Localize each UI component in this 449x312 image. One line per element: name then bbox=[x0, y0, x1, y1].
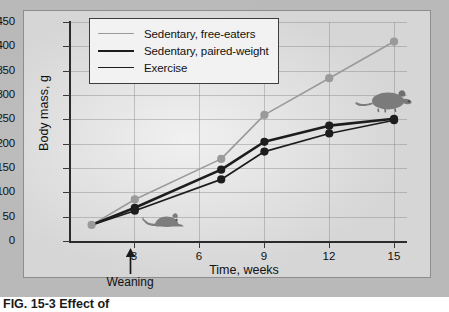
legend-entry-exercise: Exercise bbox=[98, 59, 270, 76]
legend-entry-label: Exercise bbox=[144, 62, 187, 74]
legend-line-swatch bbox=[98, 50, 134, 52]
y-tick-label: 150 bbox=[0, 161, 15, 173]
weaning-annotation: Weaning bbox=[88, 248, 172, 289]
data-point-marker bbox=[260, 147, 268, 155]
data-point-marker bbox=[390, 37, 398, 45]
rat-pup-icon bbox=[142, 211, 188, 231]
data-point-marker-origin bbox=[88, 221, 96, 229]
data-point-marker bbox=[325, 122, 333, 130]
data-point-marker bbox=[131, 195, 139, 203]
data-point-marker bbox=[217, 175, 225, 183]
data-point-marker bbox=[260, 111, 268, 119]
legend-entry-sedentary-free-eaters: Sedentary, free-eaters bbox=[98, 25, 270, 42]
legend-entry-label: Sedentary, free-eaters bbox=[144, 28, 255, 40]
legend-entry-sedentary-paired-weight: Sedentary, paired-weight bbox=[98, 42, 270, 59]
legend-line-swatch bbox=[98, 33, 134, 34]
y-tick-label: 0 bbox=[0, 234, 15, 246]
data-point-marker bbox=[260, 138, 268, 146]
figure-root: 450 400 350 300 250 200 150 100 50 0 3 6… bbox=[0, 0, 449, 312]
y-tick-label: 400 bbox=[0, 39, 15, 51]
figure-gray-panel: 450 400 350 300 250 200 150 100 50 0 3 6… bbox=[0, 0, 449, 297]
y-tick-label: 450 bbox=[0, 15, 15, 27]
plot-card: 450 400 350 300 250 200 150 100 50 0 3 6… bbox=[23, 10, 431, 278]
chart-legend: Sedentary, free-eaters Sedentary, paired… bbox=[89, 18, 279, 84]
data-point-marker bbox=[390, 116, 398, 124]
legend-line-swatch bbox=[98, 67, 134, 68]
y-tick-label: 100 bbox=[0, 185, 15, 197]
data-point-marker bbox=[325, 129, 333, 137]
data-point-marker bbox=[325, 74, 333, 82]
y-tick-label: 50 bbox=[0, 210, 15, 222]
y-tick-label: 350 bbox=[0, 64, 15, 76]
y-tick-label: 200 bbox=[0, 137, 15, 149]
figure-caption: FIG. 15-3 Effect of bbox=[3, 299, 109, 311]
figure-caption-strip: FIG. 15-3 Effect of bbox=[0, 299, 449, 312]
data-point-marker bbox=[217, 166, 225, 174]
y-tick-label: 250 bbox=[0, 112, 15, 124]
data-point-marker bbox=[217, 155, 225, 163]
y-tick-label: 300 bbox=[0, 88, 15, 100]
data-point-marker bbox=[131, 207, 139, 215]
weaning-label: Weaning bbox=[88, 275, 172, 289]
legend-entry-label: Sedentary, paired-weight bbox=[144, 45, 269, 57]
rat-adult-icon bbox=[354, 89, 416, 115]
arrow-up-icon bbox=[124, 248, 137, 274]
